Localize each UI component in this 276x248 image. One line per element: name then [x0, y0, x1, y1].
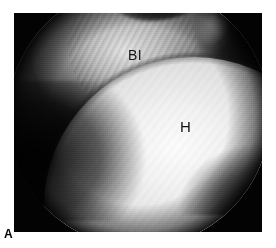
- annotation-label-humerus: H: [180, 119, 191, 134]
- panel-letter: A: [4, 228, 13, 240]
- inferior-dark-corner-region: [158, 135, 262, 215]
- annotation-label-biceps: BI: [128, 48, 142, 62]
- arthroscopic-image: BI H: [14, 13, 262, 232]
- figure-panel: BI H A: [0, 0, 276, 248]
- scope-field-of-view: BI H: [14, 13, 262, 232]
- inferior-left-recess-region: [14, 81, 148, 221]
